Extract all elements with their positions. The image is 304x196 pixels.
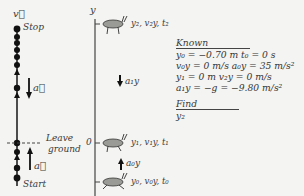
a1y-label: a₁y (125, 76, 139, 86)
a0y-arrow (118, 158, 124, 164)
position-top-label: y₂, v₂y, t₂ (131, 18, 169, 28)
accel-up-label: a⃗ (34, 160, 46, 171)
bug-bottom-icon (103, 173, 127, 189)
stop-label: Stop (23, 22, 44, 32)
bug-middle-icon (103, 134, 127, 152)
start-label: Start (23, 179, 46, 189)
leave-label-line1: Leave (46, 133, 73, 143)
ground-label-line2: ground (48, 144, 81, 154)
find-heading: Find (176, 98, 239, 110)
velocity-label: v⃗ (13, 8, 25, 19)
find-value: y₂ (176, 110, 295, 121)
a0y-label: a₀y (126, 158, 140, 168)
known-row: y₀ = −0.70 m t₀ = 0 s (176, 49, 295, 60)
known-row: y₁ = 0 m v₂y = 0 m/s (176, 71, 295, 82)
known-row: a₁y = −g = −9.80 m/s² (176, 82, 295, 93)
a1y-arrow (117, 81, 123, 87)
known-heading: Known (176, 37, 250, 49)
bug-top-icon (103, 16, 127, 34)
y-axis-zero: 0 (86, 137, 92, 147)
y-axis-label: y (90, 4, 96, 15)
known-panel: Known y₀ = −0.70 m t₀ = 0 s v₀y = 0 m/s … (176, 37, 295, 121)
position-bottom-label: y₀, v₀y, t₀ (131, 176, 169, 186)
known-row: v₀y = 0 m/s a₀y = 35 m/s² (176, 60, 295, 71)
accel-down-label: a⃗ (33, 82, 45, 93)
position-middle-label: y₁, v₁y, t₁ (131, 137, 169, 147)
